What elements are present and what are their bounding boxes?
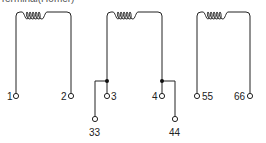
coil-3 — [197, 12, 250, 93]
terminal-4 — [159, 93, 164, 98]
terminal-66 — [247, 93, 252, 98]
junction-dot — [160, 79, 164, 83]
terminal-2 — [68, 93, 73, 98]
terminal-44 — [172, 116, 177, 121]
coil-2 — [95, 12, 175, 116]
label-55: 55 — [202, 91, 214, 102]
terminal-3 — [104, 93, 109, 98]
junction-dot — [105, 79, 109, 83]
label-44: 44 — [169, 127, 181, 138]
winding-diagram: 1 2 3 33 4 44 55 66 — [0, 0, 266, 143]
label-3: 3 — [111, 91, 117, 102]
terminal-55 — [194, 93, 199, 98]
label-2: 2 — [61, 91, 67, 102]
label-66: 66 — [234, 91, 246, 102]
coil-1 — [16, 12, 71, 93]
label-33: 33 — [89, 127, 101, 138]
terminal-33 — [92, 116, 97, 121]
label-4: 4 — [152, 91, 158, 102]
label-1: 1 — [7, 91, 13, 102]
terminal-1 — [13, 93, 18, 98]
